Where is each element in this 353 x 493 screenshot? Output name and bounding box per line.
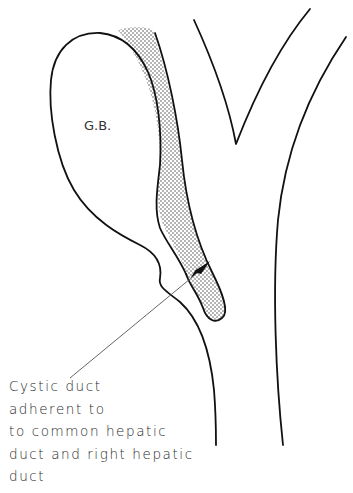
caption-line: duct — [9, 465, 194, 488]
cystic-duct-stippled — [118, 27, 224, 321]
caption-line: to common hepatic — [9, 420, 194, 443]
common-duct-right-wall — [275, 37, 346, 445]
caption-line: adherent to — [9, 398, 194, 421]
caption-line: duct and right hepatic — [9, 443, 194, 466]
annotation-caption: Cystic duct adherent to to common hepati… — [9, 375, 194, 488]
leader-line — [70, 279, 190, 378]
caption-line: Cystic duct — [9, 375, 194, 398]
hepatic-duct-v — [194, 9, 310, 144]
gallbladder-label: G.B. — [84, 118, 111, 133]
